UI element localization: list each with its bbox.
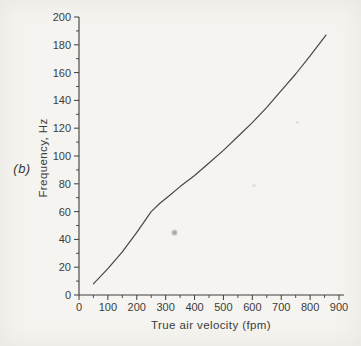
scan-speck xyxy=(296,121,299,124)
y-tick-label: 60 xyxy=(59,206,71,218)
x-tick-label: 800 xyxy=(301,301,319,313)
y-tick-label: 20 xyxy=(59,261,71,273)
y-tick-label: 200 xyxy=(53,11,71,23)
y-tick-label: 140 xyxy=(53,94,71,106)
scan-smudge xyxy=(171,229,178,237)
x-tick-label: 200 xyxy=(128,301,146,313)
x-tick-label: 0 xyxy=(76,301,82,313)
line-chart: 0100200300400500600700800900020406080100… xyxy=(0,0,361,346)
y-tick-label: 180 xyxy=(53,39,71,51)
x-tick-label: 700 xyxy=(272,301,290,313)
y-tick-label: 120 xyxy=(53,122,71,134)
x-axis-title: True air velocity (fpm) xyxy=(151,319,271,331)
y-tick-label: 80 xyxy=(59,178,71,190)
x-tick-label: 900 xyxy=(330,301,348,313)
x-tick-label: 400 xyxy=(185,301,203,313)
scan-speck xyxy=(252,184,256,187)
x-tick-label: 500 xyxy=(214,301,232,313)
x-tick-label: 100 xyxy=(99,301,117,313)
scanned-figure-panel: (b) 010020030040050060070080090002040608… xyxy=(0,0,361,346)
x-tick-label: 300 xyxy=(156,301,174,313)
y-tick-label: 40 xyxy=(59,233,71,245)
y-tick-label: 0 xyxy=(65,289,71,301)
curve-path xyxy=(93,35,326,284)
y-tick-label: 160 xyxy=(53,67,71,79)
y-axis-title: Frequency, Hz xyxy=(37,118,49,197)
y-tick-label: 100 xyxy=(53,150,71,162)
x-tick-label: 600 xyxy=(243,301,261,313)
